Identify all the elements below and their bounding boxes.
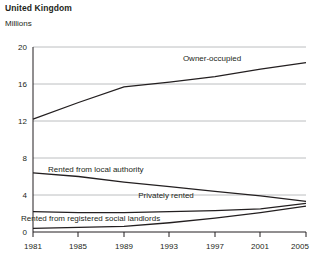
line-chart-plot: 20 16 12 8 4 0 1981 1985 1989 1993 1997 …	[0, 0, 324, 258]
x-tick-label-1989: 1989	[115, 242, 133, 251]
y-tick-label-8: 8	[23, 154, 28, 163]
x-tick-labels: 1981 1985 1989 1993 1997 2001 2005	[24, 242, 309, 251]
series-line-owner-occupied	[33, 63, 306, 119]
x-tick-label-1985: 1985	[69, 242, 87, 251]
y-tick-labels: 20 16 12 8 4 0	[18, 43, 27, 237]
series-label-owner-occupied: Owner-occupied	[183, 54, 241, 63]
x-tick-label-1997: 1997	[206, 242, 224, 251]
y-tick-label-12: 12	[18, 117, 27, 126]
x-axis	[33, 232, 306, 237]
chart-container: United Kingdom Millions 20 16 12	[0, 0, 324, 258]
x-tick-label-2001: 2001	[251, 242, 269, 251]
y-tick-label-16: 16	[18, 80, 27, 89]
series-line-privately-rented	[33, 203, 306, 212]
x-tick-label-2005: 2005	[291, 242, 309, 251]
y-tick-label-0: 0	[23, 228, 28, 237]
series-label-rented-from-local-authority: Rented from local authority	[48, 165, 144, 174]
series-annotations: Owner-occupied Rented from local authori…	[21, 54, 241, 223]
y-tick-label-4: 4	[23, 191, 28, 200]
series-lines	[33, 63, 306, 229]
x-tick-label-1981: 1981	[24, 242, 42, 251]
y-tick-label-20: 20	[18, 43, 27, 52]
series-label-rented-from-registered-social-landlords: Rented from registered social landlords	[21, 214, 160, 223]
series-label-privately-rented: Privately rented	[138, 191, 194, 200]
x-tick-label-1993: 1993	[160, 242, 178, 251]
